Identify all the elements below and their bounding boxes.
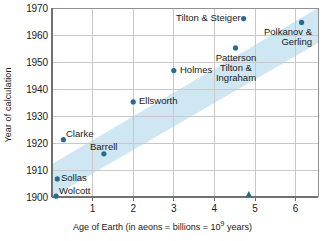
data-point-polkanov (299, 20, 304, 25)
point-label-clarke: Clarke (66, 129, 93, 140)
data-point-tilton-steiger (241, 16, 246, 21)
x-axis-title-post: years) (225, 222, 253, 232)
point-label-patterson-line3: Ingraham (215, 73, 257, 83)
point-label-patterson-tilton-ingraham: Patterson Tilton & Ingraham (215, 53, 257, 83)
point-label-wolcott: Wolcott (59, 186, 91, 197)
x-tick-6: 6 (283, 203, 309, 214)
x-axis-title: Age of Earth (in aeons = billions = 109 … (0, 222, 325, 232)
x-tick-3: 3 (161, 203, 187, 214)
x-tick-1: 1 (80, 203, 106, 214)
data-point-sollas (55, 176, 60, 181)
x-tick-4: 4 (201, 203, 227, 214)
data-point-patterson (233, 45, 238, 50)
triangle-annotation-marker (246, 191, 252, 197)
data-point-wolcott (54, 194, 59, 199)
x-tick-5: 5 (242, 203, 268, 214)
data-point-holmes (171, 68, 176, 73)
point-label-ellsworth: Ellsworth (139, 96, 178, 107)
point-label-polkanov-line2: Gerling (258, 37, 312, 47)
point-label-polkanov-gerling: Polkanov & Gerling (258, 27, 312, 47)
point-label-holmes: Holmes (180, 65, 212, 76)
scatter-chart-figure: Year of calculation 1970 1960 1950 1940 … (0, 0, 325, 241)
point-label-tilton-steiger: Tilton & Steiger (176, 13, 241, 24)
x-axis-title-pre: Age of Earth (in aeons = billions = 10 (73, 222, 221, 232)
x-tick-2: 2 (120, 203, 146, 214)
point-label-sollas: Sollas (61, 173, 87, 184)
data-point-ellsworth (131, 99, 136, 104)
point-label-barrell: Barrell (90, 142, 117, 153)
